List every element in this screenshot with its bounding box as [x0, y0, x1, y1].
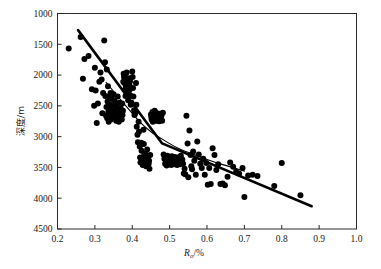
scatter-point [144, 147, 150, 153]
scatter-point [208, 181, 214, 187]
x-tick-label: 0.8 [276, 234, 288, 244]
scatter-point [183, 113, 189, 119]
scatter-point [136, 119, 142, 125]
scatter-point [120, 108, 126, 114]
scatter-point [279, 160, 285, 166]
scatter-point [133, 80, 139, 86]
y-tick-label: 2500 [34, 101, 53, 111]
scatter-point [199, 165, 205, 171]
y-tick-label: 4000 [34, 194, 53, 204]
y-tick-label: 2000 [34, 70, 53, 80]
scatter-point [146, 166, 152, 172]
y-axis-title: 深度/m [15, 106, 26, 136]
scatter-point [271, 183, 277, 189]
scatter-point [146, 158, 152, 164]
x-tick-label: 0.5 [164, 234, 176, 244]
x-axis-title-tail: /% [193, 248, 204, 258]
scatter-point [160, 110, 166, 116]
scatter-point [101, 38, 107, 44]
scatter-point [297, 192, 303, 198]
scatter-point [66, 46, 72, 52]
y-tick-label: 4500 [34, 224, 53, 234]
scatter-point [94, 120, 100, 126]
y-tick-label: 3000 [34, 132, 53, 142]
x-tick-label: 0.9 [313, 234, 325, 244]
scatter-point [182, 166, 188, 172]
x-axis-tick-labels: 0.20.30.40.50.60.70.80.91.0 [52, 234, 363, 244]
scatter-point [254, 173, 260, 179]
x-tick-label: 1.0 [351, 234, 363, 244]
y-tick-label: 1000 [34, 9, 53, 19]
scatter-point [185, 140, 191, 146]
scatter-point [210, 145, 216, 151]
scatter-point [206, 165, 212, 171]
y-tick-label: 1500 [34, 40, 53, 50]
scatter-point [93, 87, 99, 93]
scatter-point [147, 152, 153, 158]
scatter-point [130, 74, 136, 80]
x-tick-label: 0.4 [126, 234, 138, 244]
scatter-point [194, 139, 200, 145]
scatter-point [185, 174, 191, 180]
chart-container: 10001500200025003000350040004500 0.20.30… [0, 0, 381, 269]
scatter-point [211, 152, 217, 158]
scatter-point [222, 182, 228, 188]
scatter-point [86, 53, 92, 59]
scatter-point [225, 174, 231, 180]
scatter-point [189, 166, 195, 172]
scatter-point [159, 118, 165, 124]
scatter-point [95, 100, 101, 106]
x-tick-label: 0.3 [89, 234, 101, 244]
scatter-plot-svg: 10001500200025003000350040004500 0.20.30… [0, 0, 381, 269]
scatter-point [97, 70, 103, 76]
scatter-point [241, 194, 247, 200]
scatter-point [99, 76, 105, 82]
scatter-point [186, 127, 192, 133]
scatter-point [92, 65, 98, 71]
scatter-point [124, 70, 130, 76]
x-tick-label: 0.7 [238, 234, 250, 244]
scatter-point [129, 68, 135, 74]
scatter-point [130, 94, 136, 100]
x-tick-label: 0.6 [201, 234, 213, 244]
scatter-point [202, 172, 208, 178]
scatter-point [141, 141, 147, 147]
y-tick-label: 3500 [34, 163, 53, 173]
scatter-point [193, 172, 199, 178]
y-axis-title-text: 深度/m [15, 106, 26, 136]
scatter-point [80, 76, 86, 82]
x-tick-label: 0.2 [52, 234, 64, 244]
